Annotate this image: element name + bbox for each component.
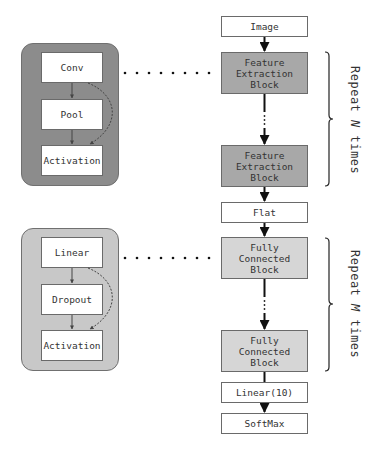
connectors-overlay: [0, 0, 377, 450]
repeat-m-label: Repeat M times: [348, 250, 362, 358]
repeat-n-var: N: [348, 120, 362, 128]
repeat-m-prefix: Repeat: [348, 250, 362, 304]
fc-detail-arrows: [72, 268, 112, 329]
repeat-n-suffix: times: [348, 128, 362, 174]
dotted-link-feature: [124, 72, 211, 75]
dotted-link-fc: [124, 257, 211, 260]
repeat-n-label: Repeat N times: [348, 66, 362, 174]
repeat-n-prefix: Repeat: [348, 66, 362, 120]
feature-detail-arrows: [72, 83, 112, 144]
braces: [325, 52, 333, 371]
repeat-m-suffix: times: [348, 312, 362, 358]
repeat-m-var: M: [348, 304, 362, 312]
